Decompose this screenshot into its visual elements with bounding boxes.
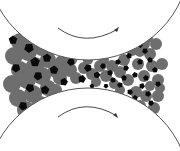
- granule: [132, 58, 144, 70]
- granule: [145, 81, 155, 91]
- granule: [138, 70, 150, 82]
- granule: [140, 90, 152, 102]
- roll-compaction-diagram: [0, 0, 180, 151]
- fine-particle: [104, 84, 109, 89]
- granule: [156, 58, 168, 70]
